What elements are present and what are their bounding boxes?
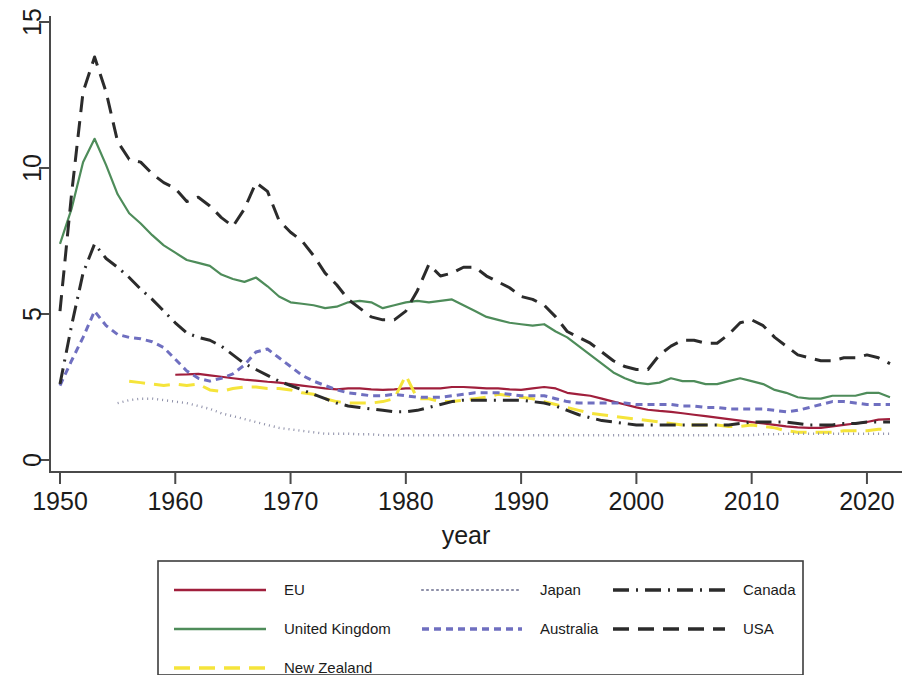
legend-item-japan[interactable]: Japan — [422, 581, 581, 598]
axis-spine — [50, 16, 902, 472]
line-chart: 05101519501960197019801990200020102020 y… — [0, 0, 902, 675]
x-tick-label: 1960 — [147, 487, 203, 515]
legend-label: New Zealand — [284, 659, 372, 675]
y-tick-label: 10 — [18, 154, 46, 182]
x-axis-title: year — [442, 521, 491, 549]
series-line-usa — [60, 57, 890, 369]
legend-label: United Kingdom — [284, 620, 391, 637]
chart-legend: EUUnited KingdomNew ZealandJapanAustrali… — [158, 561, 803, 675]
y-tick-label: 0 — [18, 453, 46, 467]
legend-label: Australia — [540, 620, 599, 637]
series-line-japan — [118, 399, 890, 436]
legend-label: Japan — [540, 581, 581, 598]
axes: 05101519501960197019801990200020102020 — [18, 8, 902, 515]
series-line-new-zealand — [129, 375, 890, 432]
x-tick-label: 2020 — [839, 487, 895, 515]
legend-item-new-zealand[interactable]: New Zealand — [174, 659, 372, 675]
x-tick-label: 1950 — [32, 487, 88, 515]
legend-item-usa[interactable]: USA — [613, 620, 774, 637]
legend-item-canada[interactable]: Canada — [613, 581, 796, 598]
x-tick-label: 1970 — [263, 487, 319, 515]
x-tick-label: 1990 — [493, 487, 549, 515]
y-tick-label: 15 — [18, 8, 46, 36]
legend-label: EU — [284, 581, 305, 598]
legend-item-united-kingdom[interactable]: United Kingdom — [174, 620, 391, 637]
x-tick-label: 1980 — [378, 487, 434, 515]
y-tick-label: 5 — [18, 307, 46, 321]
x-tick-label: 2000 — [609, 487, 665, 515]
axis-labels: year — [442, 521, 491, 549]
chart-figure: 05101519501960197019801990200020102020 y… — [0, 0, 902, 675]
legend-label: USA — [743, 620, 774, 637]
legend-label: Canada — [743, 581, 796, 598]
x-tick-label: 2010 — [724, 487, 780, 515]
series-line-united-kingdom — [60, 139, 890, 399]
legend-border — [158, 561, 803, 675]
legend-item-australia[interactable]: Australia — [422, 620, 599, 637]
series-line-eu — [175, 374, 890, 428]
legend-item-eu[interactable]: EU — [174, 581, 305, 598]
series-layer — [60, 57, 890, 435]
